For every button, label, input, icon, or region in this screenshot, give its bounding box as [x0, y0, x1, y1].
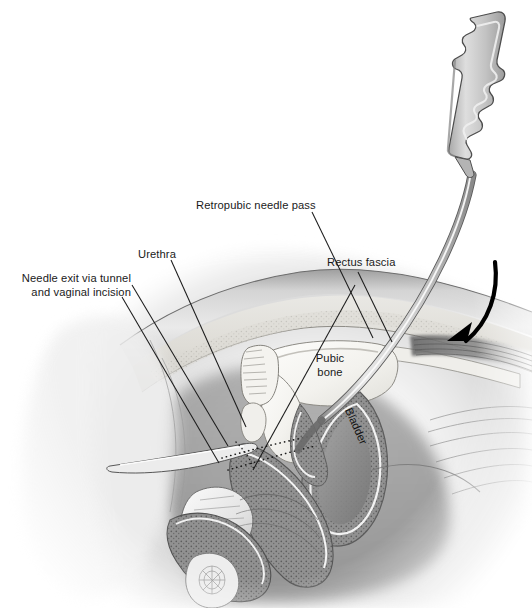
label-pubic-bone-line2: bone — [306, 366, 354, 380]
label-urethra: Urethra — [138, 248, 176, 262]
label-pubic-bone-line1: Pubic — [306, 352, 354, 366]
medical-illustration-svg — [0, 0, 532, 608]
label-needle-exit-line1: Needle exit via tunnel — [0, 272, 131, 286]
label-needle-exit-line2: and vaginal incision — [0, 286, 131, 300]
symphyseal-disc — [241, 345, 279, 405]
coccyx-rings — [199, 566, 225, 594]
label-retropubic-needle-pass: Retropubic needle pass — [196, 199, 316, 213]
label-rectus-fascia: Rectus fascia — [327, 256, 395, 270]
illustration-canvas: Retropubic needle pass Urethra Needle ex… — [0, 0, 532, 608]
